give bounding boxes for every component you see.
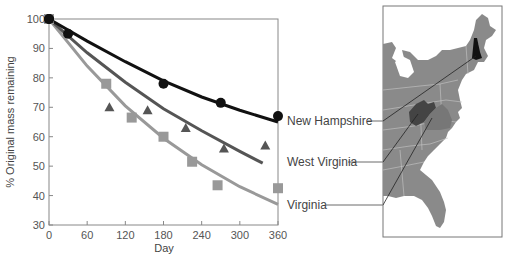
x-axis-title: Day xyxy=(154,242,174,254)
figure: 30405060708090100 060120180240300360 Day… xyxy=(0,0,512,265)
data-point-virginia xyxy=(187,157,197,167)
data-point-new-hampshire xyxy=(63,29,73,39)
y-tick-label: 40 xyxy=(33,190,45,202)
x-tick-label: 300 xyxy=(231,229,249,241)
data-point-west-virginia xyxy=(260,141,270,150)
fit-curve-west-virginia xyxy=(49,19,263,163)
label-west-virginia: West Virginia xyxy=(287,155,358,169)
data-point-west-virginia xyxy=(104,102,114,111)
x-tick-label: 240 xyxy=(192,229,210,241)
x-tick-label: 360 xyxy=(269,229,287,241)
data-point-west-virginia xyxy=(143,105,153,114)
data-point-virginia xyxy=(159,132,169,142)
fit-curves xyxy=(49,19,278,204)
y-axis-title: % Original mass remaining xyxy=(4,56,16,187)
data-point-origin xyxy=(44,14,54,24)
map xyxy=(383,6,502,237)
y-tick-label: 50 xyxy=(33,160,45,172)
y-tick-label: 30 xyxy=(33,219,45,231)
label-new-hampshire: New Hampshire xyxy=(287,114,373,128)
data-point-virginia xyxy=(273,183,283,193)
plot-area: 30405060708090100 060120180240300360 Day… xyxy=(4,13,287,254)
data-point-new-hampshire xyxy=(216,98,226,108)
data-point-virginia xyxy=(213,180,223,190)
data-point-new-hampshire xyxy=(273,111,283,121)
x-tick-label: 180 xyxy=(154,229,172,241)
data-points xyxy=(44,14,283,193)
fit-curve-new-hampshire xyxy=(49,19,278,122)
y-tick-label: 80 xyxy=(33,72,45,84)
x-tick-label: 0 xyxy=(46,229,52,241)
state-labels: New Hampshire West Virginia Virginia xyxy=(287,114,383,212)
x-tick-label: 120 xyxy=(116,229,134,241)
y-tick-label: 100 xyxy=(27,13,45,25)
data-point-virginia xyxy=(101,79,111,89)
x-tick-label: 60 xyxy=(81,229,93,241)
label-virginia: Virginia xyxy=(287,198,327,212)
y-tick-label: 70 xyxy=(33,101,45,113)
y-tick-label: 90 xyxy=(33,42,45,54)
y-tick-label: 60 xyxy=(33,131,45,143)
x-axis: 060120180240300360 xyxy=(46,221,287,241)
data-point-new-hampshire xyxy=(159,79,169,89)
data-point-virginia xyxy=(127,113,137,123)
